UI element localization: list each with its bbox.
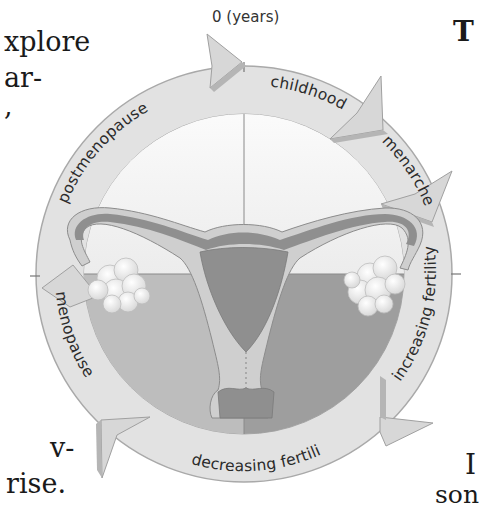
axis-label-zero-years: 0 (years) — [212, 8, 279, 26]
arrow-head-to-decreasing-fertility — [380, 417, 433, 446]
vaginal-vault — [218, 388, 274, 418]
